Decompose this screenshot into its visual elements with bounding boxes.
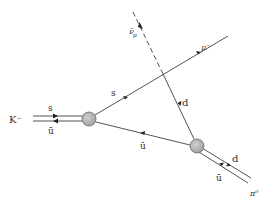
s-quark-label: s (111, 88, 116, 98)
pion-label: π⁰ (249, 189, 259, 198)
pion-d-label: d (232, 153, 239, 164)
kaon-vertex-blob (82, 112, 96, 126)
antineutrino-line (133, 12, 163, 74)
kaon-ubar-label: ū (48, 126, 54, 136)
antineutrino-label: ν̄μ (129, 27, 137, 39)
pion-ubar-label: ū (216, 173, 222, 183)
feynman-diagram: K⁻ s ū s d ū μ⁻ ν̄μ d ū π⁰ (0, 0, 275, 208)
muon-label: μ⁻ (201, 43, 210, 52)
arrow-right-icon (53, 114, 58, 119)
d-quark-line (163, 74, 194, 139)
ubar-internal-label: ū (140, 141, 146, 151)
kaon-label: K⁻ (9, 114, 22, 125)
arrow-left-icon (53, 119, 58, 124)
kaon-incoming-lines (33, 114, 83, 124)
pion-outgoing-lines (199, 148, 251, 183)
d-quark-label: d (182, 97, 189, 108)
pion-vertex-blob (190, 139, 204, 153)
arrow-ubar-icon (140, 131, 145, 135)
kaon-s-label: s (48, 103, 53, 113)
